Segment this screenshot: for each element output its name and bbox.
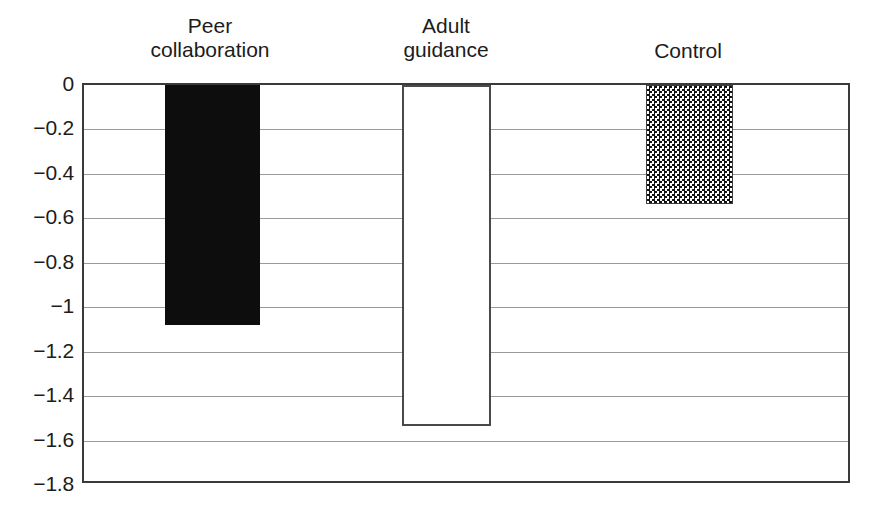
y-tick-label-1: −0.2	[4, 117, 74, 138]
y-axis: 0 −0.2 −0.4 −0.6 −0.8 −1 −1.2 −1.4 −1.6 …	[0, 0, 74, 516]
plot-area	[82, 83, 850, 483]
category-label-control: Control	[618, 39, 758, 63]
y-tick-label-8: −1.6	[4, 428, 74, 449]
y-tick-label-2: −0.4	[4, 161, 74, 182]
y-tick-label-5: −1	[4, 295, 74, 316]
y-tick-label-4: −0.8	[4, 250, 74, 271]
bar-peer-collaboration[interactable]	[165, 85, 260, 325]
bar-chart-figure: 0 −0.2 −0.4 −0.6 −0.8 −1 −1.2 −1.4 −1.6 …	[0, 0, 880, 516]
y-tick-label-3: −0.6	[4, 206, 74, 227]
y-tick-label-9: −1.8	[4, 473, 74, 494]
y-tick-label-7: −1.4	[4, 384, 74, 405]
category-label-peer-collaboration: Peer collaboration	[110, 14, 310, 62]
bar-control[interactable]	[646, 85, 733, 204]
gridline--1.6	[84, 441, 848, 442]
category-label-adult-guidance: Adult guidance	[376, 14, 516, 62]
y-tick-label-6: −1.2	[4, 339, 74, 360]
bar-adult-guidance[interactable]	[402, 85, 491, 426]
y-tick-label-0: 0	[4, 73, 74, 94]
